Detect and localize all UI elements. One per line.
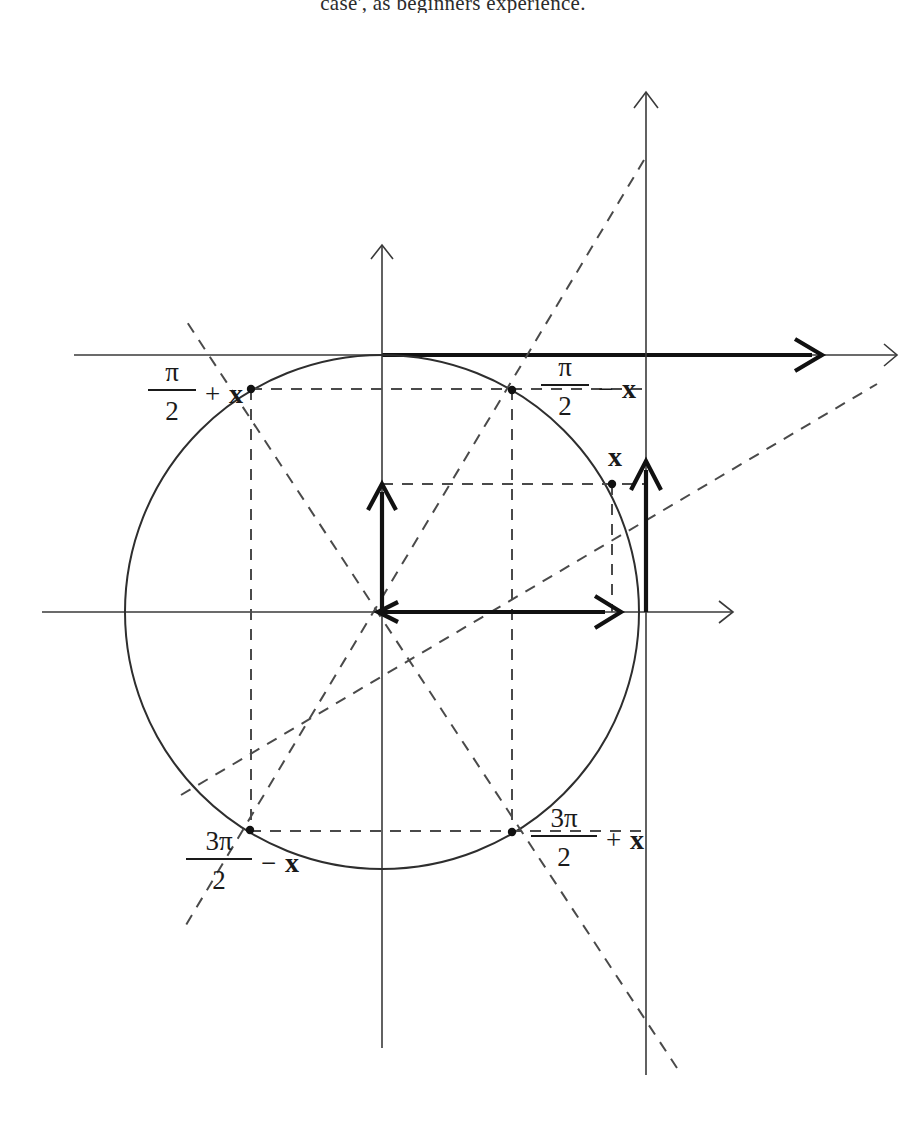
label-3pi-over-2-plus-x-denominator: 2 — [557, 842, 571, 872]
label-pi-over-2-minus-x-numerator: π — [558, 352, 572, 382]
label-3pi-over-2-minus-x-variable: x — [285, 847, 299, 878]
point-pi-over-2-plus-x — [247, 385, 255, 393]
label-3pi-over-2-plus-x-operator: + — [606, 825, 621, 855]
point-x — [608, 480, 616, 488]
page-root: case', as beginners experience. — [0, 0, 906, 1127]
label-pi-over-2-plus-x-variable: x — [229, 378, 243, 409]
label-pi-over-2-minus-x-operator: − — [598, 374, 613, 404]
label-3pi-over-2-plus-x: 3π 2 + x — [531, 803, 644, 872]
dashed-radius-line-x — [181, 384, 877, 795]
label-x-variable: x — [608, 441, 622, 472]
label-3pi-over-2-minus-x-denominator: 2 — [212, 865, 226, 895]
point-3pi-over-2-minus-x — [246, 826, 254, 834]
label-pi-over-2-plus-x-numerator: π — [165, 357, 179, 387]
label-pi-over-2-minus-x-denominator: 2 — [558, 391, 572, 421]
label-pi-over-2-plus-x-denominator: 2 — [165, 396, 179, 426]
point-3pi-over-2-plus-x — [508, 828, 516, 836]
dashed-radius-line-pi-over-2-plus-x — [185, 319, 677, 1068]
label-3pi-over-2-plus-x-numerator: 3π — [550, 803, 578, 833]
label-3pi-over-2-minus-x-operator: − — [261, 848, 276, 878]
sine-component-vector — [368, 484, 396, 612]
point-pi-over-2-minus-x — [508, 386, 516, 394]
label-3pi-over-2-minus-x-numerator: 3π — [205, 826, 233, 856]
label-3pi-over-2-plus-x-variable: x — [630, 824, 644, 855]
label-pi-over-2-plus-x: π 2 + x — [148, 357, 243, 426]
y-axis — [371, 245, 393, 1048]
label-3pi-over-2-minus-x: 3π 2 − x — [186, 826, 299, 895]
label-pi-over-2-plus-x-operator: + — [205, 379, 220, 409]
upper-horizontal-bold-arrow — [382, 339, 822, 371]
unit-circle-figure: π 2 + x π 2 − x x 3π 2 − x 3π — [0, 0, 906, 1127]
tangent-component-vector — [631, 461, 661, 612]
label-pi-over-2-minus-x: π 2 − x — [541, 352, 636, 421]
cosine-component-vector — [382, 596, 621, 628]
label-pi-over-2-minus-x-variable: x — [622, 373, 636, 404]
label-x: x — [608, 441, 622, 472]
